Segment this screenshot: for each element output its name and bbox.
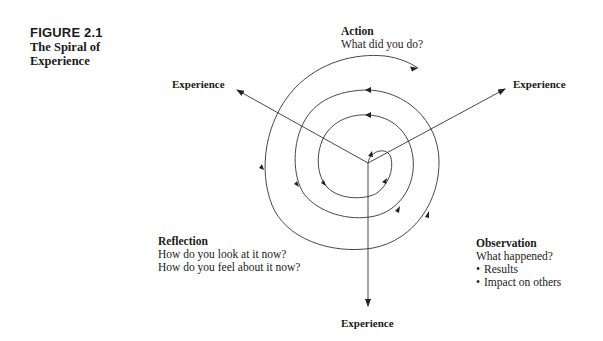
observation-question: What happened?	[476, 250, 561, 263]
bullet-item: Results	[476, 263, 561, 276]
axis-upper-right	[368, 89, 505, 163]
bullet-item: Impact on others	[476, 276, 561, 289]
action-label: Action What did you do?	[341, 25, 423, 51]
spiral-arrow	[395, 206, 400, 213]
spiral-arrow	[425, 211, 429, 218]
reflection-question-2: How do you feel about it now?	[158, 261, 300, 274]
observation-heading: Observation	[476, 237, 561, 250]
axis-upper-left	[237, 90, 368, 163]
spiral-arrow	[259, 164, 264, 170]
spiral-diagram	[0, 0, 603, 341]
spiral-arrow	[365, 87, 371, 93]
reflection-question-1: How do you look at it now?	[158, 248, 300, 261]
experience-label-upper-left: Experience	[172, 78, 225, 90]
reflection-heading: Reflection	[158, 235, 300, 248]
spiral-path	[265, 55, 439, 249]
spiral-arrow	[365, 112, 371, 118]
action-heading: Action	[341, 25, 423, 38]
action-question: What did you do?	[341, 38, 423, 51]
experience-label-bottom: Experience	[341, 317, 394, 329]
reflection-label: Reflection How do you look at it now? Ho…	[158, 235, 300, 274]
experience-label-upper-right: Experience	[513, 78, 566, 90]
observation-bullets: Results Impact on others	[476, 263, 561, 289]
spiral-arrow	[368, 151, 373, 157]
spiral-arrow	[321, 180, 326, 186]
observation-label: Observation What happened? Results Impac…	[476, 237, 561, 289]
